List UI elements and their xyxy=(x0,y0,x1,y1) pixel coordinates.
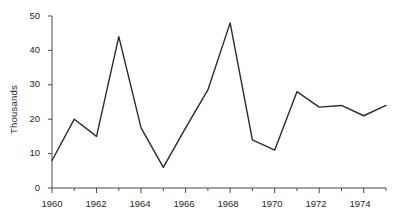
line-chart: Thousands 50 40 30 20 10 0 1960 1962 196… xyxy=(0,0,398,219)
y-axis-ticks xyxy=(48,16,52,188)
plot-area xyxy=(0,0,398,219)
data-series-line xyxy=(52,23,386,167)
x-axis-ticks xyxy=(52,188,386,193)
axis-lines xyxy=(52,16,386,188)
